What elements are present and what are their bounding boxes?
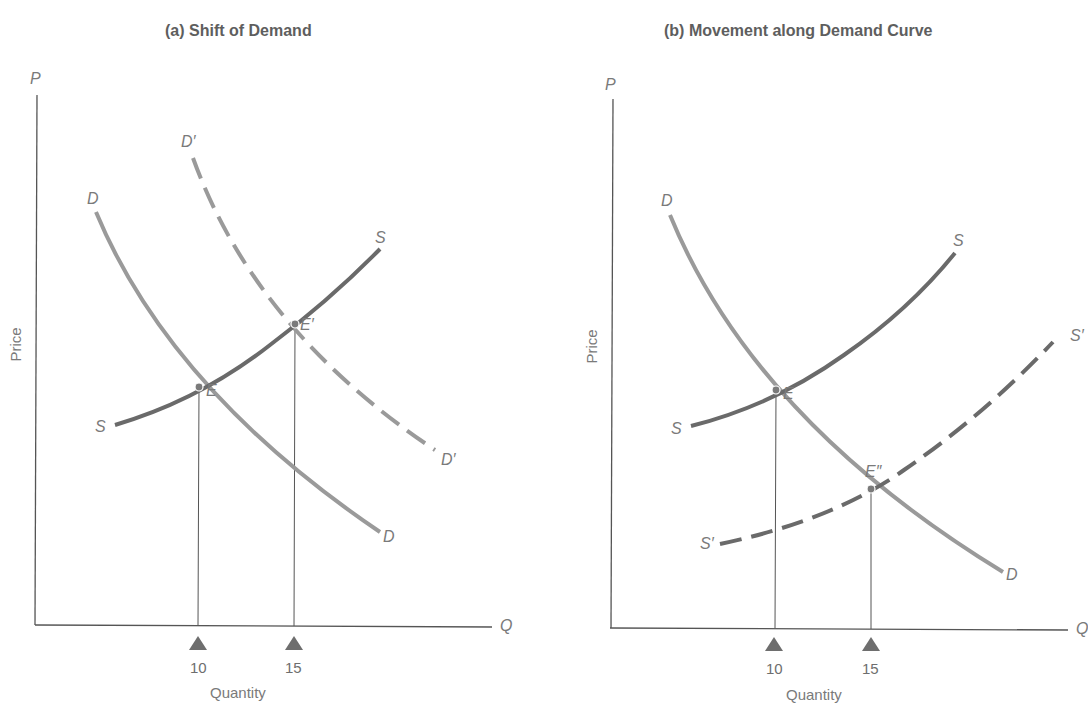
y-axis-symbol: P (30, 70, 41, 88)
guide-line-q15 (294, 324, 295, 626)
tick-marker-15 (862, 637, 880, 651)
point-label-eprime: E′ (300, 316, 314, 334)
curve-label-sprime-top: S′ (1070, 327, 1084, 345)
x-axis-title: Quantity (210, 684, 266, 701)
tick-label-10: 10 (190, 659, 207, 676)
y-axis-title: Price (7, 327, 24, 361)
supply-curve-s (691, 253, 955, 426)
point-label-edouble: E″ (865, 463, 881, 481)
curve-label-s-bottom: S (671, 420, 682, 438)
x-axis-symbol: Q (1076, 620, 1088, 638)
panel-movement-along-demand: (b) Movement along Demand Curve P Q Pric… (544, 0, 1088, 707)
supply-curve-sprime (720, 342, 1053, 544)
demand-curve-d (670, 215, 1003, 572)
curve-label-dprime-bottom: D′ (441, 451, 456, 469)
equilibrium-point-e (195, 383, 203, 391)
guide-line-q10 (198, 387, 199, 625)
point-label-e: E (206, 382, 217, 400)
y-axis (611, 99, 613, 628)
curve-label-d-top: D (661, 192, 673, 210)
guide-line-q10 (775, 390, 776, 628)
x-axis (35, 625, 492, 627)
x-axis (610, 628, 1068, 630)
x-axis-title: Quantity (786, 686, 842, 703)
panel-shift-of-demand: (a) Shift of Demand P Q Price Quantity 1… (0, 0, 544, 707)
chart-plot-area (544, 0, 1088, 707)
curve-label-s-bottom: S (95, 418, 106, 436)
tick-marker-10 (765, 637, 783, 651)
curve-label-s-top: S (375, 229, 386, 247)
curve-label-dprime-top: D′ (181, 133, 196, 151)
y-axis-title: Price (583, 329, 600, 363)
equilibrium-point-e (772, 386, 780, 394)
x-axis-symbol: Q (500, 617, 512, 635)
curve-label-d-bottom: D (1006, 566, 1018, 584)
tick-marker-10 (189, 636, 207, 650)
tick-label-15: 15 (285, 659, 302, 676)
curve-label-sprime-bottom: S′ (700, 535, 714, 553)
y-axis (35, 95, 37, 625)
chart-plot-area (0, 0, 544, 707)
equilibrium-point-eprime (291, 320, 299, 328)
tick-marker-15 (285, 636, 303, 650)
y-axis-symbol: P (605, 76, 616, 94)
curve-label-s-top: S (953, 232, 964, 250)
curve-label-d-top: D (87, 190, 99, 208)
tick-label-15: 15 (862, 660, 879, 677)
tick-label-10: 10 (766, 660, 783, 677)
supply-curve-s (115, 249, 380, 425)
point-label-e: E (783, 385, 794, 403)
equilibrium-point-edouble (867, 485, 875, 493)
curve-label-d-bottom: D (383, 528, 395, 546)
